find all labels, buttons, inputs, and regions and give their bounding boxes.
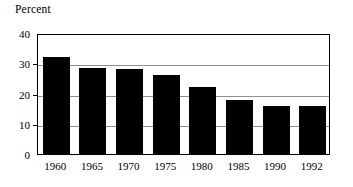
bar-1975 [153, 75, 180, 154]
bar-1965 [79, 68, 106, 154]
x-tick-label-1975: 1975 [154, 160, 176, 173]
bar-1985 [226, 100, 253, 154]
bar-1992 [299, 106, 326, 154]
bar-1960 [43, 57, 70, 154]
bar-chart-figure: Percent 010203040 1960196519701975198019… [0, 0, 353, 187]
y-axis: 010203040 [0, 34, 37, 155]
x-tick-label-1960: 1960 [44, 160, 66, 173]
y-tick-label-30: 30 [19, 59, 30, 70]
x-tick-label-1970: 1970 [118, 160, 140, 173]
x-tick-label-1992: 1992 [301, 160, 323, 173]
x-tick-label-1980: 1980 [191, 160, 213, 173]
x-axis: 19601965197019751980198519901992 [37, 160, 330, 180]
plot-area [37, 34, 330, 155]
bar-1980 [189, 87, 216, 154]
x-tick-label-1965: 1965 [81, 160, 103, 173]
x-tick-label-1990: 1990 [264, 160, 286, 173]
y-tick-label-10: 10 [19, 119, 30, 130]
chart-title: Percent [15, 2, 51, 16]
y-tick-label-0: 0 [25, 150, 31, 161]
bar-1970 [116, 69, 143, 154]
y-tick-label-20: 20 [19, 89, 30, 100]
x-tick-label-1985: 1985 [227, 160, 249, 173]
bar-1990 [263, 106, 290, 154]
y-tick-label-40: 40 [19, 29, 30, 40]
bar-series [38, 35, 329, 154]
